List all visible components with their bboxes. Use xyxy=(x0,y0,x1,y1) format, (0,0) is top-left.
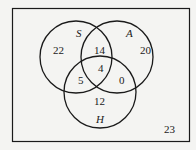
set-label-a: A xyxy=(125,27,133,39)
set-label-s: S xyxy=(76,27,82,39)
region-s-a-h: 4 xyxy=(98,62,104,74)
region-h-only: 12 xyxy=(94,95,105,107)
region-s-only: 22 xyxy=(53,44,64,56)
set-label-h: H xyxy=(95,113,105,125)
region-s-a: 14 xyxy=(94,44,106,56)
region-outside: 23 xyxy=(164,123,176,135)
venn-diagram: S A H 22 20 14 4 5 0 12 23 xyxy=(0,0,196,150)
region-a-only: 20 xyxy=(140,44,152,56)
region-a-h: 0 xyxy=(119,74,125,86)
region-s-h: 5 xyxy=(78,74,84,86)
